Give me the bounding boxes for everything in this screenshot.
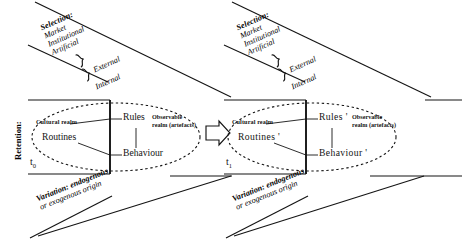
cluster-t0-observable-realm-label: Observable realm (artefacts) — [152, 113, 196, 129]
cluster-t1-rules-label: Rules ' — [319, 112, 348, 122]
funnel-t0-variation-wedge — [28, 174, 231, 238]
cluster-t1-observable-line1: Observable — [352, 113, 396, 121]
brace-external-t1 — [272, 53, 282, 67]
cluster-t0-rules-label: Rules — [123, 112, 145, 122]
cluster-t1-routines-leader — [274, 143, 306, 155]
cluster-t1-cultural-realm-label: Cultural realm — [232, 119, 273, 126]
diagram-canvas: Retention: Selection: Market Institution… — [0, 0, 464, 239]
cluster-t0-time-label: t0 — [30, 157, 36, 170]
selection-t1-braces — [272, 53, 289, 81]
cluster-t0-routines-leader — [78, 143, 110, 155]
selection-t0-braces — [76, 53, 93, 81]
cluster-t0-time-subscript: 0 — [33, 162, 36, 169]
cluster-t1-routines-label: Routines ' — [238, 132, 280, 142]
cluster-t0-observable-line2: realm (artefacts) — [152, 121, 196, 129]
brace-external-t0 — [76, 53, 86, 67]
cluster-t0-routines-label: Routines — [42, 132, 76, 142]
evolution-arrow — [206, 121, 230, 145]
cluster-t1-behaviour-label: Behaviour ' — [319, 148, 368, 158]
retention-label: Retention: — [13, 121, 23, 160]
cluster-t0-behaviour-label: Behaviour — [123, 148, 163, 158]
cluster-t1-observable-realm-label: Observable realm (artefacts) — [352, 113, 396, 129]
cluster-t1-time-subscript: 1 — [229, 162, 232, 169]
cluster-t1-observable-line2: realm (artefacts) — [352, 121, 396, 129]
cluster-t0-observable-line1: Observable — [152, 113, 196, 121]
cluster-t1-time-label: t1 — [226, 157, 232, 170]
cluster-t0-cultural-realm-label: Cultural realm — [36, 119, 77, 126]
